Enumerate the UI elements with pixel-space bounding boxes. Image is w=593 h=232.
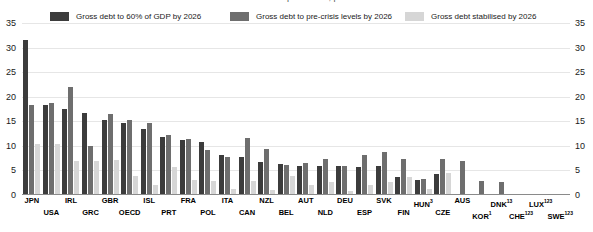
bar-group-pol[interactable] (199, 23, 216, 194)
bar-group-esp[interactable] (356, 23, 373, 194)
bar-group-irl[interactable] (62, 23, 79, 194)
bar-ita-series-0[interactable] (219, 155, 224, 194)
bar-isl-series-0[interactable] (141, 129, 146, 194)
bar-ita-series-1[interactable] (225, 157, 230, 194)
bar-bel-series-2[interactable] (290, 176, 295, 194)
bar-group-che[interactable] (513, 23, 530, 194)
bar-bel-series-0[interactable] (278, 164, 283, 194)
bar-nld-series-1[interactable] (323, 159, 328, 194)
bar-group-fra[interactable] (180, 23, 197, 194)
bar-fin-series-1[interactable] (401, 159, 406, 194)
bar-irl-series-2[interactable] (74, 161, 79, 194)
bar-cze-series-2[interactable] (446, 173, 451, 194)
bar-can-series-1[interactable] (245, 138, 250, 194)
bar-usa-series-1[interactable] (49, 103, 54, 194)
bar-cze-series-1[interactable] (440, 159, 445, 194)
bar-esp-series-2[interactable] (368, 185, 373, 194)
bar-can-series-0[interactable] (239, 157, 244, 194)
bar-prt-series-1[interactable] (166, 135, 171, 194)
bar-fra-series-0[interactable] (180, 140, 185, 194)
bar-group-deu[interactable] (336, 23, 353, 194)
bar-dnk-series-1[interactable] (499, 182, 504, 194)
bar-fin-series-2[interactable] (407, 177, 412, 194)
bar-group-ita[interactable] (219, 23, 236, 194)
bar-esp-series-0[interactable] (356, 167, 361, 194)
bar-aus-series-1[interactable] (460, 161, 465, 194)
bar-group-nld[interactable] (317, 23, 334, 194)
bar-group-fin[interactable] (395, 23, 412, 194)
bar-oecd-series-0[interactable] (121, 123, 126, 194)
bar-hun-series-0[interactable] (415, 180, 420, 194)
bar-group-svk[interactable] (376, 23, 393, 194)
bar-nld-series-2[interactable] (329, 182, 334, 194)
bar-svk-series-2[interactable] (388, 182, 393, 194)
bar-svk-series-1[interactable] (382, 152, 387, 194)
bar-group-cze[interactable] (434, 23, 451, 194)
bar-group-aus[interactable] (454, 23, 471, 194)
bar-jpn-series-0[interactable] (23, 40, 28, 194)
bar-ita-series-2[interactable] (231, 189, 236, 194)
bar-hun-series-1[interactable] (421, 179, 426, 194)
legend-item-0[interactable]: Gross debt to 60% of GDP by 2026 (50, 9, 201, 23)
bar-grc-series-2[interactable] (94, 161, 99, 194)
legend-item-1[interactable]: Gross debt to pre-crisis levels by 2026 (230, 9, 392, 23)
bar-jpn-series-2[interactable] (35, 144, 40, 194)
bar-group-bel[interactable] (278, 23, 295, 194)
bar-kor-series-1[interactable] (479, 181, 484, 194)
bar-oecd-series-1[interactable] (127, 120, 132, 194)
bar-fra-series-1[interactable] (186, 139, 191, 194)
bar-group-dnk[interactable] (493, 23, 510, 194)
bar-deu-series-0[interactable] (336, 166, 341, 195)
bar-group-isl[interactable] (141, 23, 158, 194)
bar-nzl-series-1[interactable] (264, 149, 269, 194)
bar-group-jpn[interactable] (23, 23, 40, 194)
bar-group-grc[interactable] (82, 23, 99, 194)
bar-prt-series-0[interactable] (160, 137, 165, 194)
bar-group-prt[interactable] (160, 23, 177, 194)
bar-group-swe[interactable] (552, 23, 569, 194)
bar-gbr-series-2[interactable] (114, 160, 119, 194)
bar-pol-series-1[interactable] (205, 150, 210, 194)
bar-group-kor[interactable] (473, 23, 490, 194)
bar-group-lux[interactable] (532, 23, 549, 194)
bar-pol-series-0[interactable] (199, 142, 204, 194)
bar-grc-series-1[interactable] (88, 146, 93, 194)
bar-pol-series-2[interactable] (211, 181, 216, 194)
bar-irl-series-0[interactable] (62, 109, 67, 194)
bar-oecd-series-2[interactable] (133, 176, 138, 194)
bar-isl-series-2[interactable] (153, 185, 158, 194)
bar-cze-series-0[interactable] (434, 174, 439, 194)
bar-group-usa[interactable] (43, 23, 60, 194)
bar-nzl-series-0[interactable] (258, 162, 263, 194)
bar-group-nzl[interactable] (258, 23, 275, 194)
bar-group-aut[interactable] (297, 23, 314, 194)
bar-aut-series-2[interactable] (309, 185, 314, 194)
bar-prt-series-2[interactable] (172, 167, 177, 194)
bar-aut-series-0[interactable] (297, 166, 302, 195)
bar-group-oecd[interactable] (121, 23, 138, 194)
bar-fin-series-0[interactable] (395, 177, 400, 194)
bar-usa-series-2[interactable] (55, 144, 60, 194)
bar-svk-series-0[interactable] (376, 166, 381, 195)
bar-gbr-series-0[interactable] (102, 120, 107, 194)
bar-isl-series-1[interactable] (147, 123, 152, 194)
bar-irl-series-1[interactable] (68, 87, 73, 194)
bar-jpn-series-1[interactable] (29, 105, 34, 194)
bar-gbr-series-1[interactable] (108, 114, 113, 194)
bar-can-series-2[interactable] (251, 181, 256, 194)
bar-group-hun[interactable] (415, 23, 432, 194)
bar-nld-series-0[interactable] (317, 166, 322, 195)
bar-nzl-series-2[interactable] (270, 190, 275, 194)
bar-grc-series-0[interactable] (82, 113, 87, 194)
bar-hun-series-2[interactable] (427, 189, 432, 194)
bar-group-can[interactable] (239, 23, 256, 194)
bar-group-gbr[interactable] (102, 23, 119, 194)
bar-deu-series-2[interactable] (348, 191, 353, 194)
bar-aut-series-1[interactable] (303, 163, 308, 194)
bar-deu-series-1[interactable] (342, 166, 347, 195)
legend-item-2[interactable]: Gross debt stabilised by 2026 (405, 9, 536, 23)
bar-esp-series-1[interactable] (362, 155, 367, 194)
bar-usa-series-0[interactable] (43, 105, 48, 194)
bar-bel-series-1[interactable] (284, 165, 289, 194)
bar-fra-series-2[interactable] (192, 180, 197, 194)
